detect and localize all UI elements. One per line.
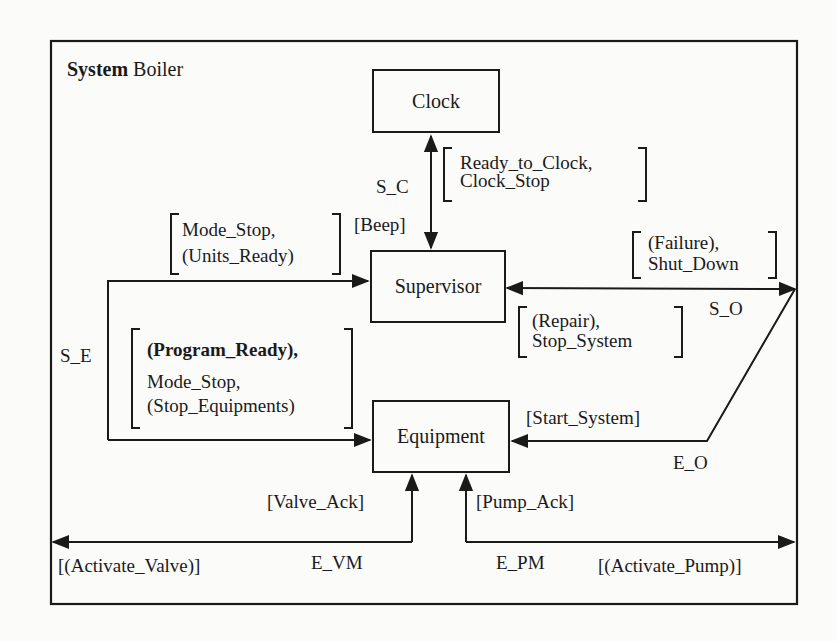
supervisor-box[interactable]: Supervisor bbox=[370, 250, 506, 323]
message-activate-valve: [(Activate_Valve)] bbox=[58, 556, 200, 576]
channel-s-c-label: S_C bbox=[376, 177, 409, 197]
channel-e-vm-label: E_VM bbox=[311, 553, 363, 573]
message-valve-ack: [Valve_Ack] bbox=[267, 492, 364, 512]
message-units-ready: (Units_Ready) bbox=[182, 246, 294, 266]
message-repair: (Repair), bbox=[532, 311, 600, 331]
message-activate-pump: [(Activate_Pump)] bbox=[598, 556, 742, 576]
equipment-box[interactable]: Equipment bbox=[372, 400, 510, 473]
message-clock-stop: Clock_Stop bbox=[460, 171, 550, 191]
channel-s-o-line bbox=[507, 288, 795, 289]
message-program-ready: (Program_Ready), bbox=[147, 340, 298, 360]
channel-s-o-label: S_O bbox=[709, 299, 743, 319]
channel-e-o-label: E_O bbox=[673, 453, 708, 473]
message-failure: (Failure), bbox=[648, 233, 719, 253]
message-beep: [Beep] bbox=[354, 215, 406, 235]
message-mode-stop: Mode_Stop, bbox=[182, 220, 275, 240]
message-stop-equipments: (Stop_Equipments) bbox=[147, 396, 295, 416]
message-mode-stop-2: Mode_Stop, bbox=[147, 372, 240, 392]
message-start-system: [Start_System] bbox=[526, 408, 640, 428]
system-title: System Boiler bbox=[67, 59, 183, 79]
message-group-supervisor-left: Mode_Stop, (Units_Ready) bbox=[170, 213, 341, 275]
channel-s-e-label: S_E bbox=[60, 346, 92, 366]
system-name: Boiler bbox=[133, 58, 183, 80]
message-pump-ack: [Pump_Ack] bbox=[476, 492, 574, 512]
message-group-equipment-left: (Program_Ready), Mode_Stop, (Stop_Equipm… bbox=[131, 328, 353, 429]
message-group-clock-in: Ready_to_Clock, Clock_Stop bbox=[443, 147, 647, 202]
channel-e-pm-label: E_PM bbox=[496, 553, 545, 573]
clock-box[interactable]: Clock bbox=[372, 69, 500, 133]
message-group-supervisor-in-right: (Repair), Stop_System bbox=[518, 306, 683, 358]
message-group-supervisor-out: (Failure), Shut_Down bbox=[632, 231, 777, 279]
system-keyword: System bbox=[67, 58, 128, 80]
message-shut-down: Shut_Down bbox=[648, 254, 739, 274]
message-stop-system: Stop_System bbox=[532, 331, 632, 351]
